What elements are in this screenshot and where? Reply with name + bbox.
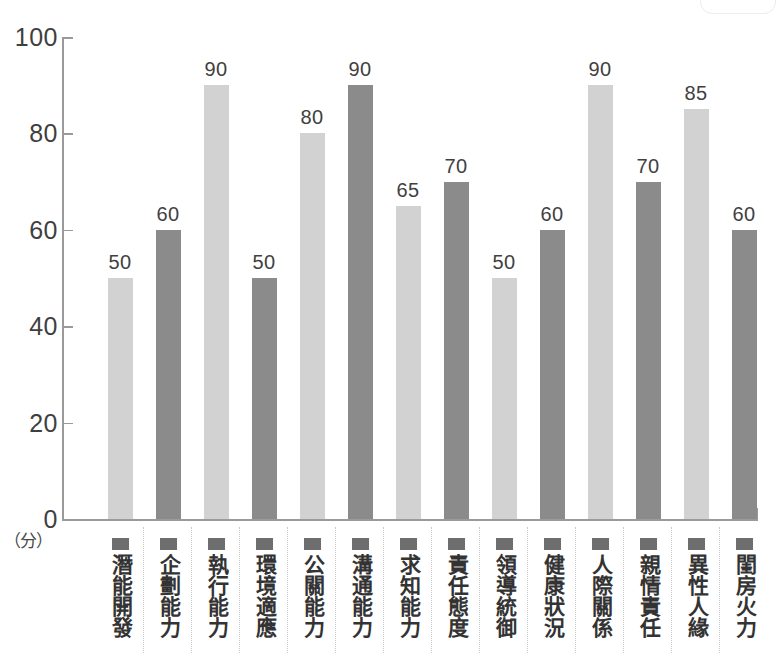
category-label-text: 責任態度 — [445, 554, 467, 638]
bar[interactable] — [444, 182, 469, 519]
bar-chart: 100806040200 （分） 50609050809065705060907… — [0, 0, 784, 655]
category-label-column[interactable]: 親情責任 — [624, 521, 672, 655]
bar-slot: 50 — [240, 37, 288, 519]
category-label-column[interactable]: 公關能力 — [288, 521, 336, 655]
category-label-text: 環境適應 — [253, 554, 275, 638]
column-separator — [623, 527, 624, 653]
category-label-text: 人際關係 — [589, 554, 611, 638]
column-separator — [575, 527, 576, 653]
category-label-column[interactable]: 潛能開發 — [96, 521, 144, 655]
column-separator — [143, 527, 144, 653]
bar[interactable] — [108, 278, 133, 519]
y-axis-tick-label: 100 — [2, 23, 58, 52]
square-marker-icon — [160, 538, 177, 550]
y-axis-tick-label: 40 — [2, 312, 58, 341]
bar-slot: 60 — [720, 37, 768, 519]
category-label-column[interactable]: 領導統御 — [480, 521, 528, 655]
category-label-column[interactable]: 人際關係 — [576, 521, 624, 655]
column-separator — [239, 527, 240, 653]
column-separator — [479, 527, 480, 653]
category-label-text: 潛能開發 — [109, 554, 131, 638]
square-marker-icon — [592, 538, 609, 550]
category-label-text: 公關能力 — [301, 554, 323, 638]
square-marker-icon — [736, 538, 753, 550]
square-marker-icon — [256, 538, 273, 550]
bar-value-label: 90 — [576, 58, 624, 81]
bar-slot: 90 — [336, 37, 384, 519]
column-separator — [287, 527, 288, 653]
bar-value-label: 60 — [720, 203, 768, 226]
square-marker-icon — [208, 538, 225, 550]
category-label-text: 溝通能力 — [349, 554, 371, 638]
bar[interactable] — [684, 109, 709, 519]
category-label-text: 領導統御 — [493, 554, 515, 638]
column-separator — [527, 527, 528, 653]
category-label-column[interactable]: 異性人緣 — [672, 521, 720, 655]
category-label-text: 親情責任 — [637, 554, 659, 638]
column-separator — [191, 527, 192, 653]
square-marker-icon — [640, 538, 657, 550]
category-label-text: 異性人緣 — [685, 554, 707, 638]
bar[interactable] — [732, 230, 757, 519]
category-label-column[interactable]: 環境適應 — [240, 521, 288, 655]
category-label-column[interactable]: 企劃能力 — [144, 521, 192, 655]
bar-slot: 60 — [528, 37, 576, 519]
category-label-text: 健康狀況 — [541, 554, 563, 638]
category-label-column[interactable]: 求知能力 — [384, 521, 432, 655]
category-label-text: 執行能力 — [205, 554, 227, 638]
y-axis-unit-label: （分） — [4, 527, 52, 552]
bar-slot: 50 — [480, 37, 528, 519]
bar[interactable] — [492, 278, 517, 519]
bar[interactable] — [252, 278, 277, 519]
bar-slot: 85 — [672, 37, 720, 519]
bar-value-label: 50 — [240, 251, 288, 274]
category-label-text: 企劃能力 — [157, 554, 179, 638]
category-label-column[interactable]: 責任態度 — [432, 521, 480, 655]
bar-slot: 65 — [384, 37, 432, 519]
y-axis-tick-label: 80 — [2, 119, 58, 148]
bar-slot: 70 — [432, 37, 480, 519]
square-marker-icon — [544, 538, 561, 550]
bar-value-label: 80 — [288, 106, 336, 129]
column-separator — [671, 527, 672, 653]
column-separator — [335, 527, 336, 653]
bar[interactable] — [540, 230, 565, 519]
category-label-column[interactable]: 健康狀況 — [528, 521, 576, 655]
bar-value-label: 70 — [624, 155, 672, 178]
bar-value-label: 90 — [192, 58, 240, 81]
bar-slot: 80 — [288, 37, 336, 519]
y-axis-tick-label: 60 — [2, 215, 58, 244]
category-label-column[interactable]: 執行能力 — [192, 521, 240, 655]
square-marker-icon — [400, 538, 417, 550]
column-separator — [719, 527, 720, 653]
bar-value-label: 60 — [528, 203, 576, 226]
bar-value-label: 65 — [384, 179, 432, 202]
bar[interactable] — [636, 182, 661, 519]
bar-value-label: 60 — [144, 203, 192, 226]
plot-area: 5060905080906570506090708560 — [62, 37, 758, 519]
y-axis-tick-label: 20 — [2, 408, 58, 437]
category-label-column[interactable]: 閨房火力 — [720, 521, 768, 655]
bar-value-label: 50 — [96, 251, 144, 274]
scan-artifact-rounded-box — [700, 0, 776, 14]
category-labels-row: 潛能開發企劃能力執行能力環境適應公關能力溝通能力求知能力責任態度領導統御健康狀況… — [62, 521, 758, 655]
bar[interactable] — [300, 133, 325, 519]
bar[interactable] — [204, 85, 229, 519]
bar[interactable] — [588, 85, 613, 519]
square-marker-icon — [304, 538, 321, 550]
bar[interactable] — [348, 85, 373, 519]
bar-slot: 60 — [144, 37, 192, 519]
category-label-text: 求知能力 — [397, 554, 419, 638]
bar-slot: 90 — [192, 37, 240, 519]
category-label-column[interactable]: 溝通能力 — [336, 521, 384, 655]
square-marker-icon — [112, 538, 129, 550]
bar-value-label: 70 — [432, 155, 480, 178]
square-marker-icon — [352, 538, 369, 550]
bar-value-label: 90 — [336, 58, 384, 81]
square-marker-icon — [448, 538, 465, 550]
bar-slot: 90 — [576, 37, 624, 519]
bar[interactable] — [156, 230, 181, 519]
bar-slot: 70 — [624, 37, 672, 519]
bar[interactable] — [396, 206, 421, 519]
square-marker-icon — [688, 538, 705, 550]
